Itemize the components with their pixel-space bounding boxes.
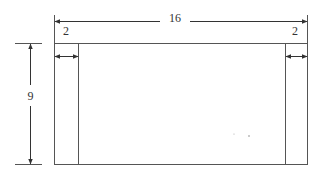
speck — [248, 135, 250, 137]
dimension-diagram: 16 2 2 9 — [0, 0, 323, 171]
height-label: 9 — [28, 89, 34, 103]
width-label: 16 — [169, 11, 181, 25]
outer-rectangle — [55, 44, 308, 165]
speck — [233, 133, 234, 134]
left-margin-label: 2 — [63, 24, 69, 38]
right-margin-label: 2 — [292, 24, 298, 38]
